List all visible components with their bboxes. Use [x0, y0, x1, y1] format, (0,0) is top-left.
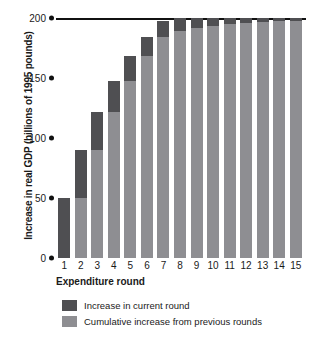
- y-axis-tick-label: 0: [24, 253, 46, 264]
- bar-segment-current-round: [75, 150, 87, 198]
- x-axis-tick-label: 8: [172, 260, 189, 271]
- bar-series-group: [56, 18, 304, 258]
- x-axis-tick-label: 14: [271, 260, 288, 271]
- stacked-bar: [257, 18, 269, 258]
- stacked-bar: [91, 112, 103, 258]
- bar-segment-cumulative: [273, 21, 285, 258]
- bar-segment-current-round: [58, 198, 70, 258]
- bar-column: [155, 18, 172, 258]
- bar-column: [238, 18, 255, 258]
- bar-segment-current-round: [191, 18, 203, 28]
- x-axis-tick-label: 9: [188, 260, 205, 271]
- bar-segment-current-round: [174, 18, 186, 31]
- bar-segment-cumulative: [108, 112, 120, 258]
- bar-segment-cumulative: [191, 28, 203, 258]
- y-axis-tick-label: 150: [24, 73, 46, 84]
- y-axis-tick-50: 50: [24, 193, 56, 204]
- x-axis-tick-label: 6: [139, 260, 156, 271]
- bar-column: [254, 18, 271, 258]
- x-axis-tick-label: 10: [205, 260, 222, 271]
- x-axis-tick-label: 5: [122, 260, 139, 271]
- bar-column: [73, 18, 90, 258]
- stacked-bar: [240, 18, 252, 258]
- y-axis-tick-dot: [49, 196, 54, 201]
- bar-column: [271, 18, 288, 258]
- bar-segment-cumulative: [290, 21, 302, 258]
- bar-column: [56, 18, 73, 258]
- bar-column: [287, 18, 304, 258]
- x-axis-tick-label: 7: [155, 260, 172, 271]
- y-axis-tick-dot: [49, 16, 54, 21]
- stacked-bar: [290, 18, 302, 258]
- stacked-bar: [108, 81, 120, 258]
- x-axis-tick-label: 4: [106, 260, 123, 271]
- bar-segment-cumulative: [240, 23, 252, 258]
- y-axis-tick-0: 0: [24, 253, 56, 264]
- legend-item: Cumulative increase from previous rounds: [62, 316, 262, 327]
- y-axis-tick-label: 50: [24, 193, 46, 204]
- chart-legend: Increase in current roundCumulative incr…: [62, 300, 262, 332]
- x-axis-tick-label: 15: [287, 260, 304, 271]
- bar-segment-current-round: [157, 21, 169, 37]
- bar-segment-cumulative: [174, 31, 186, 258]
- bar-column: [221, 18, 238, 258]
- x-axis-tick-label: 13: [254, 260, 271, 271]
- bar-segment-current-round: [91, 112, 103, 150]
- bar-column: [205, 18, 222, 258]
- bar-column: [89, 18, 106, 258]
- stacked-bar: [174, 18, 186, 258]
- x-axis-tick-label: 11: [221, 260, 238, 271]
- y-axis-tick-dot: [49, 256, 54, 261]
- bar-segment-cumulative: [75, 198, 87, 258]
- y-axis-tick-150: 150: [24, 73, 56, 84]
- bar-segment-cumulative: [91, 150, 103, 258]
- bar-segment-current-round: [141, 37, 153, 57]
- x-axis-tick-label: 12: [238, 260, 255, 271]
- bar-segment-cumulative: [207, 26, 219, 258]
- chart-figure: Increase in real GDP (billions of 1995 p…: [0, 0, 312, 344]
- y-axis-tick-label: 100: [24, 133, 46, 144]
- x-axis-tick-labels: 123456789101112131415: [56, 260, 304, 271]
- bar-column: [106, 18, 123, 258]
- stacked-bar: [124, 56, 136, 258]
- bar-segment-cumulative: [124, 81, 136, 258]
- stacked-bar: [207, 18, 219, 258]
- bar-segment-current-round: [207, 18, 219, 26]
- legend-swatch: [62, 316, 77, 327]
- y-axis-tick-100: 100: [24, 133, 56, 144]
- bar-segment-current-round: [108, 81, 120, 112]
- stacked-bar: [157, 21, 169, 258]
- legend-swatch: [62, 300, 77, 311]
- bar-column: [122, 18, 139, 258]
- x-axis-tick-label: 2: [73, 260, 90, 271]
- stacked-bar: [58, 198, 70, 258]
- bar-segment-current-round: [124, 56, 136, 81]
- stacked-bar: [191, 18, 203, 258]
- bar-column: [172, 18, 189, 258]
- legend-item: Increase in current round: [62, 300, 262, 311]
- x-axis-tick-label: 1: [56, 260, 73, 271]
- y-axis-tick-dot: [49, 136, 54, 141]
- bar-segment-cumulative: [141, 56, 153, 258]
- x-axis-tick-label: 3: [89, 260, 106, 271]
- legend-label: Cumulative increase from previous rounds: [84, 316, 262, 327]
- plot-area: 050100150200: [56, 18, 304, 258]
- bar-segment-cumulative: [224, 24, 236, 258]
- stacked-bar: [273, 18, 285, 258]
- bar-column: [188, 18, 205, 258]
- stacked-bar: [75, 150, 87, 258]
- stacked-bar: [141, 37, 153, 258]
- stacked-bar: [224, 18, 236, 258]
- y-axis-tick-200: 200: [24, 13, 56, 24]
- legend-label: Increase in current round: [84, 300, 190, 311]
- x-axis-title: Expenditure round: [56, 276, 145, 287]
- bar-segment-cumulative: [257, 22, 269, 258]
- y-axis-tick-dot: [49, 76, 54, 81]
- y-axis-tick-label: 200: [24, 13, 46, 24]
- bar-segment-cumulative: [157, 37, 169, 258]
- bar-column: [139, 18, 156, 258]
